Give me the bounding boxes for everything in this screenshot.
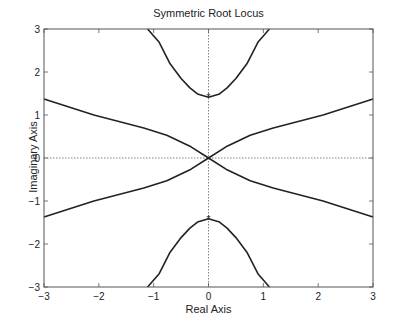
y-tick-label: 2 — [34, 67, 40, 78]
x-tick-label: −3 — [38, 291, 50, 302]
x-tick-label: 2 — [315, 291, 321, 302]
chart-title: Symmetric Root Locus — [44, 7, 373, 19]
asterisk-marker: * — [207, 214, 211, 225]
x-tick-label: −2 — [93, 291, 105, 302]
axis-ticks: −3−2−10123−3−2−10123 — [29, 24, 377, 302]
locus-branch-lower — [148, 219, 270, 287]
y-tick-label: −2 — [29, 239, 41, 250]
x-tick-label: −1 — [148, 291, 160, 302]
asterisk-marker: * — [207, 92, 211, 103]
x-tick-label: 3 — [370, 291, 376, 302]
x-tick-label: 1 — [261, 291, 267, 302]
root-locus-plot: ** −3−2−10123−3−2−10123 — [0, 0, 394, 327]
y-axis-label: Imaginary Axis — [27, 82, 39, 232]
y-tick-label: −3 — [29, 282, 41, 293]
x-axis-label: Real Axis — [44, 303, 373, 315]
x-tick-label: 0 — [206, 291, 212, 302]
y-tick-label: 3 — [34, 24, 40, 35]
